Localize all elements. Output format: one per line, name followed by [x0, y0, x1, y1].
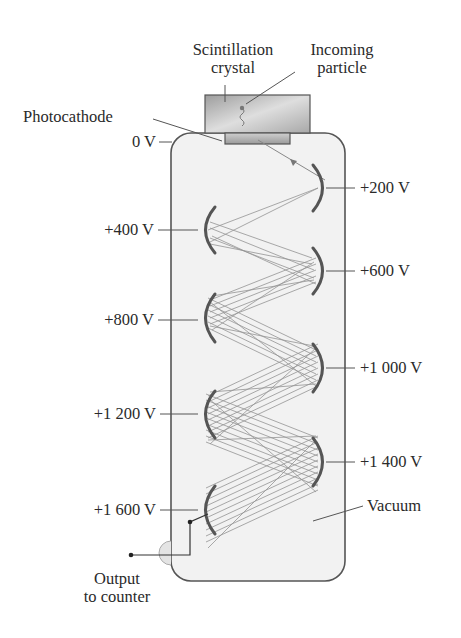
label-line: Scintillation	[178, 41, 288, 59]
label-line: to counter	[62, 588, 172, 606]
voltage-label-600: +600 V	[360, 262, 410, 280]
voltage-label-0: 0 V	[90, 133, 156, 151]
voltage-label-400: +400 V	[70, 221, 154, 239]
output-label: Output to counter	[62, 570, 172, 606]
label-line: crystal	[178, 59, 288, 77]
photocathode	[225, 133, 290, 144]
label-line: Incoming	[292, 41, 392, 59]
vacuum-label: Vacuum	[367, 497, 421, 515]
voltage-label-1600: +1 600 V	[60, 501, 156, 519]
voltage-label-200: +200 V	[360, 179, 410, 197]
voltage-label-1000: +1 000 V	[360, 359, 422, 377]
label-line: Output	[62, 570, 172, 588]
voltage-label-1200: +1 200 V	[60, 405, 156, 423]
voltage-label-1400: +1 400 V	[360, 453, 422, 471]
voltage-label-800: +800 V	[70, 311, 154, 329]
photocathode-label: Photocathode	[23, 108, 113, 126]
incoming-particle-label: Incoming particle	[292, 41, 392, 77]
label-line: particle	[292, 59, 392, 77]
scintillation-crystal-label: Scintillation crystal	[178, 41, 288, 77]
scintillation-crystal	[205, 95, 310, 133]
